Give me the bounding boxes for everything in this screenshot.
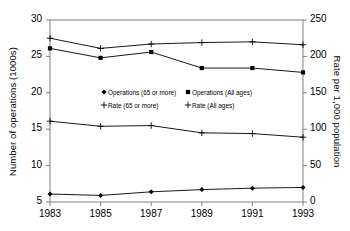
x-axis-tick-label: 1987 xyxy=(131,208,171,219)
y-axis-left-tick-label: 25 xyxy=(2,49,42,60)
legend-label-rate-all-ages: Rate (All ages) xyxy=(192,102,234,109)
legend-label-operations-all-ages: Operations (All ages) xyxy=(192,89,252,96)
chart-canvas xyxy=(0,0,350,231)
y-axis-right-tick-label: 100 xyxy=(310,122,350,133)
y-axis-right-tick-label: 150 xyxy=(310,86,350,97)
x-axis-tick-label: 1993 xyxy=(283,208,323,219)
x-axis-tick-label: 1991 xyxy=(232,208,272,219)
y-axis-left-tick-label: 15 xyxy=(2,122,42,133)
legend-marker-2 xyxy=(186,90,190,94)
y-axis-left-tick-label: 10 xyxy=(2,159,42,170)
x-axis-tick-label: 1989 xyxy=(182,208,222,219)
y-axis-left-tick-label: 5 xyxy=(2,195,42,206)
x-axis-tick-label: 1985 xyxy=(81,208,121,219)
legend-label-rate-65-or-more: Rate (65 or more) xyxy=(108,102,158,109)
legend-label-operations-65-or-more: Operations (65 or more) xyxy=(108,89,176,96)
x-axis-tick-label: 1983 xyxy=(30,208,70,219)
y-axis-right-tick-label: 250 xyxy=(310,13,350,24)
y-axis-right-tick-label: 0 xyxy=(310,195,350,206)
chart-background xyxy=(0,0,350,231)
y-axis-left-tick-label: 20 xyxy=(2,86,42,97)
y-axis-right-tick-label: 50 xyxy=(310,159,350,170)
y-axis-right-tick-label: 200 xyxy=(310,49,350,60)
y-axis-left-tick-label: 30 xyxy=(2,13,42,24)
